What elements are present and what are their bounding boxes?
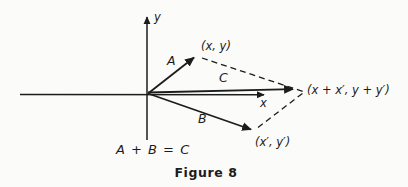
diagram-canvas: y x A B C (x, y) (x′, y′) (x + x′, y + y… — [0, 0, 408, 187]
point-sum-label: (x + x′, y + y′) — [307, 83, 390, 97]
figure-caption: Figure 8 — [174, 165, 237, 180]
vector-equation: A + B = C — [115, 142, 190, 157]
point-xy-label: (x, y) — [201, 39, 231, 53]
y-axis-label: y — [153, 10, 161, 24]
point-xprime-yprime-label: (x′, y′) — [255, 135, 290, 149]
vector-c-label: C — [219, 70, 228, 85]
vector-b-label: B — [198, 111, 207, 126]
x-axis-label: x — [259, 96, 267, 110]
vector-a-label: A — [166, 53, 176, 68]
vector-addition-figure: y x A B C (x, y) (x′, y′) (x + x′, y + y… — [0, 0, 408, 187]
